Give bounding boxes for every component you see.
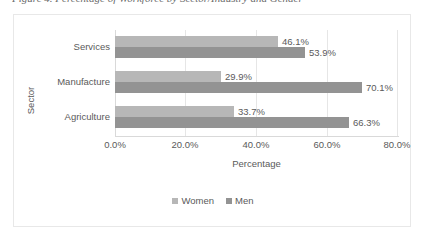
- y-axis-title: Sector: [24, 55, 38, 145]
- x-axis-tick-label-20: 20.0%: [172, 139, 199, 151]
- x-axis-tick-label-0: 0.0%: [104, 139, 126, 151]
- x-axis-tick-labels: 0.0% 20.0% 40.0% 60.0% 80.0%: [115, 139, 398, 153]
- bar-manufacture-men[interactable]: [115, 82, 362, 93]
- bar-services-women[interactable]: [115, 36, 278, 47]
- plot-area: 46.1% 53.9% 29.9% 70.1% 33.7% 66.3%: [115, 30, 398, 136]
- bar-label-services-men: 53.9%: [305, 47, 336, 58]
- figure-title: Figure 4. Percentage of Workforce by Sec…: [12, 0, 412, 4]
- bar-services-men[interactable]: [115, 47, 305, 58]
- x-axis-tick-label-60: 60.0%: [314, 139, 341, 151]
- bar-label-agriculture-men: 66.3%: [349, 117, 380, 128]
- chart-legend: Women Men: [14, 195, 412, 206]
- legend-label-women: Women: [181, 195, 214, 206]
- bar-group-services: 46.1% 53.9%: [115, 36, 398, 62]
- y-axis-tick-labels: Services Manufacture Agriculture: [38, 30, 114, 136]
- y-axis-tick-label-services: Services: [36, 42, 110, 52]
- legend-swatch-women-icon: [172, 198, 178, 204]
- x-axis-tick-label-40: 40.0%: [243, 139, 270, 151]
- y-axis-tick-label-manufacture: Manufacture: [36, 77, 110, 87]
- legend-swatch-men-icon: [226, 198, 232, 204]
- bar-group-agriculture: 33.7% 66.3%: [115, 106, 398, 132]
- bar-manufacture-women[interactable]: [115, 71, 221, 82]
- x-axis-line: [115, 136, 399, 137]
- bar-label-manufacture-women: 29.9%: [221, 71, 252, 82]
- legend-label-men: Men: [235, 195, 253, 206]
- y-axis-tick-label-agriculture: Agriculture: [36, 112, 110, 122]
- chart-plot-wrapper: Sector Services Manufacture Agriculture …: [14, 15, 412, 228]
- bar-label-agriculture-women: 33.7%: [234, 106, 265, 117]
- bar-group-manufacture: 29.9% 70.1%: [115, 71, 398, 97]
- legend-item-women[interactable]: Women: [172, 195, 214, 206]
- x-axis-title: Percentage: [115, 158, 398, 169]
- bar-label-services-women: 46.1%: [278, 36, 309, 47]
- chart-frame: Sector Services Manufacture Agriculture …: [13, 14, 411, 227]
- x-axis-tick-label-80: 80.0%: [384, 139, 411, 151]
- legend-item-men[interactable]: Men: [226, 195, 253, 206]
- y-axis-title-text: Sector: [26, 86, 37, 113]
- bar-agriculture-men[interactable]: [115, 117, 349, 128]
- bar-agriculture-women[interactable]: [115, 106, 234, 117]
- bar-label-manufacture-men: 70.1%: [362, 82, 393, 93]
